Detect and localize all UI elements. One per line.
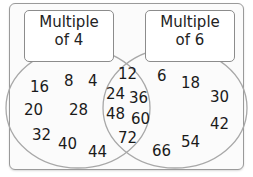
number-66: 66 xyxy=(152,143,171,159)
number-18: 18 xyxy=(181,75,200,91)
number-4: 4 xyxy=(88,73,98,89)
label-left-line2: of 4 xyxy=(25,31,113,49)
number-72: 72 xyxy=(118,130,137,146)
label-multiple-of-4: Multiple of 4 xyxy=(24,10,114,62)
number-20: 20 xyxy=(24,102,43,118)
number-60: 60 xyxy=(131,111,150,127)
label-multiple-of-6: Multiple of 6 xyxy=(145,10,235,62)
number-44: 44 xyxy=(88,144,107,160)
number-42: 42 xyxy=(210,116,229,132)
number-32: 32 xyxy=(32,127,51,143)
label-right-line1: Multiple xyxy=(146,13,234,31)
number-24: 24 xyxy=(106,86,125,102)
number-6: 6 xyxy=(157,68,167,84)
number-54: 54 xyxy=(181,134,200,150)
label-left-line1: Multiple xyxy=(25,13,113,31)
number-8: 8 xyxy=(64,73,74,89)
number-30: 30 xyxy=(210,89,229,105)
number-16: 16 xyxy=(30,79,49,95)
number-28: 28 xyxy=(69,102,88,118)
number-36: 36 xyxy=(129,90,148,106)
number-12: 12 xyxy=(118,66,137,82)
number-48: 48 xyxy=(106,106,125,122)
label-right-line2: of 6 xyxy=(146,31,234,49)
number-40: 40 xyxy=(58,136,77,152)
